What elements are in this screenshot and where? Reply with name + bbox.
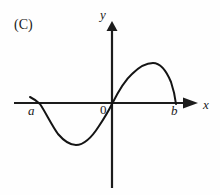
function-graph-svg [0, 0, 220, 195]
point-b-label: b [171, 104, 178, 117]
panel-label: (C) [14, 18, 33, 32]
point-a-label: a [28, 104, 35, 117]
x-axis-arrowhead [183, 98, 198, 109]
figure-container: (C) y x 0 a b [0, 0, 220, 195]
y-axis-label: y [100, 8, 106, 21]
y-axis-arrowhead [107, 21, 118, 31]
x-axis-label: x [203, 98, 209, 111]
origin-label: 0 [100, 103, 107, 116]
